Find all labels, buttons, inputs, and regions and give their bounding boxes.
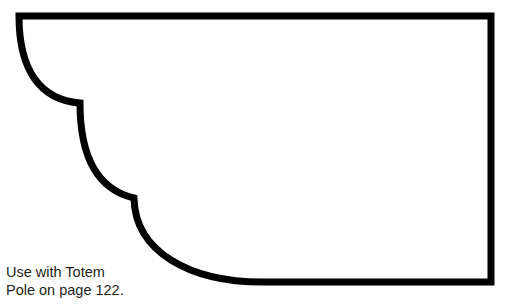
- caption-text: Use with Totem Pole on page 122.: [6, 264, 124, 299]
- scalloped-outline-path: [19, 16, 491, 282]
- caption-line-1: Use with Totem: [6, 264, 124, 282]
- caption-line-2: Pole on page 122.: [6, 282, 124, 300]
- pattern-outline-shape: [0, 0, 506, 305]
